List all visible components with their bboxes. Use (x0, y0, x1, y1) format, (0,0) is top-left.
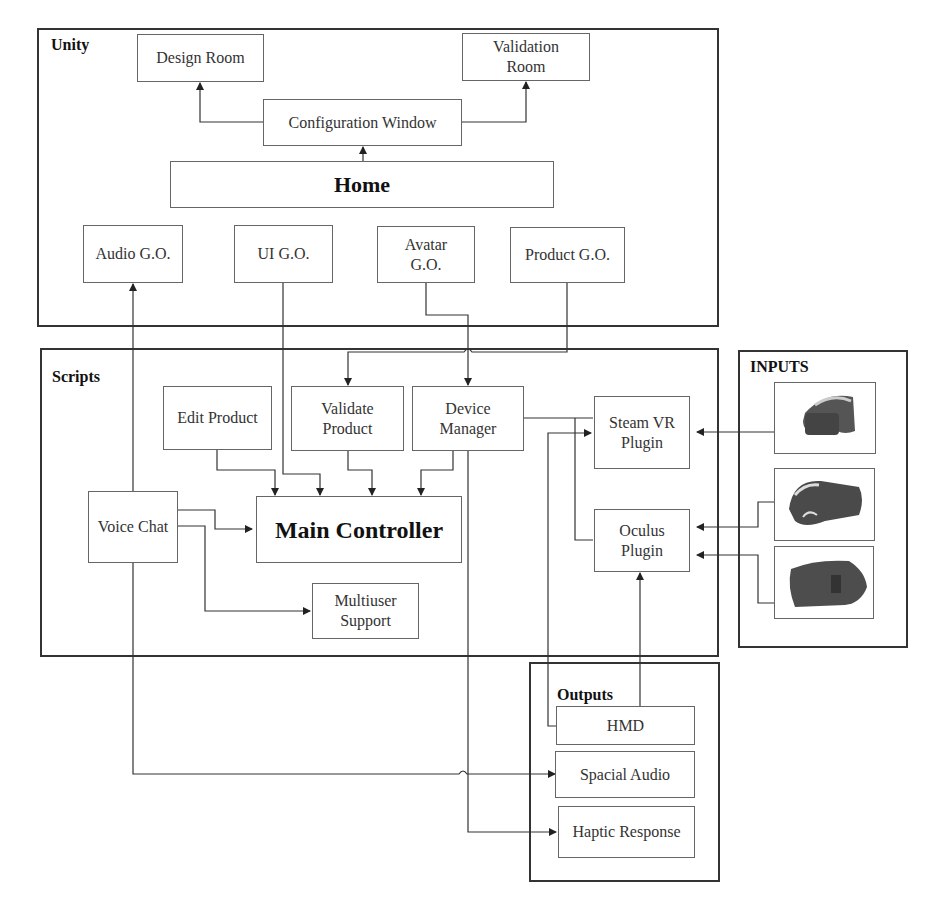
input-device-htc-vive (774, 382, 876, 454)
input-device-oculus-rift (774, 468, 875, 541)
vr-headset-icon (775, 383, 875, 453)
configuration-window-node: Configuration Window (263, 99, 462, 146)
vr-headset-icon (775, 547, 873, 617)
device-manager-node: Device Manager (412, 386, 524, 451)
avatar-go-node: Avatar G.O. (377, 226, 475, 283)
steam-vr-plugin-node: Steam VR Plugin (594, 396, 690, 469)
product-go-node: Product G.O. (510, 227, 625, 283)
scripts-label: Scripts (52, 368, 100, 386)
inputs-label: INPUTS (750, 358, 809, 376)
validate-product-node: Validate Product (291, 386, 404, 451)
design-room-node: Design Room (137, 34, 264, 82)
validation-room-node: Validation Room (462, 33, 590, 81)
voice-chat-node: Voice Chat (88, 491, 178, 563)
home-node: Home (170, 161, 554, 208)
main-controller-node: Main Controller (256, 496, 462, 563)
audio-go-node: Audio G.O. (83, 225, 183, 283)
edit-product-node: Edit Product (163, 386, 272, 450)
spacial-audio-node: Spacial Audio (555, 751, 695, 798)
unity-label: Unity (51, 36, 89, 54)
hmd-node: HMD (556, 706, 695, 745)
multiuser-support-node: Multiuser Support (312, 583, 419, 639)
oculus-plugin-node: Oculus Plugin (594, 509, 690, 572)
vr-headset-icon (775, 469, 875, 539)
haptic-response-node: Haptic Response (558, 806, 695, 858)
outputs-label: Outputs (557, 686, 613, 704)
input-device-oculus-go (774, 546, 874, 619)
ui-go-node: UI G.O. (234, 225, 333, 283)
